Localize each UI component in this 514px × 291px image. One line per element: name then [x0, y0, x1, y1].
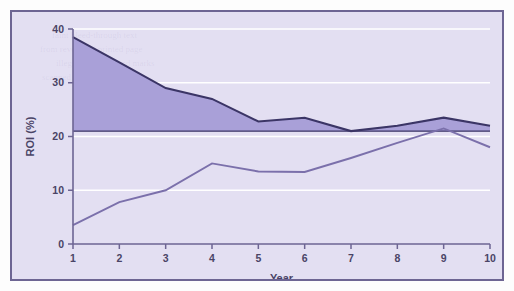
y-tick-label: 40 — [52, 23, 64, 35]
x-tick-label: 4 — [209, 252, 215, 264]
y-tick-label: 30 — [52, 76, 64, 88]
series-upper-area — [73, 37, 490, 131]
x-tick-label: 6 — [302, 252, 308, 264]
y-tick-label: 20 — [52, 130, 64, 142]
chart-plot-area: 010203040 12345678910 Year ROI (%) — [12, 12, 502, 279]
y-axis-tick-labels: 010203040 — [52, 23, 64, 250]
y-tick-label: 0 — [58, 238, 64, 250]
series-lower-line — [73, 128, 490, 225]
figure-container: faint bleed-through text from reverse of… — [0, 0, 514, 291]
y-tick-label: 10 — [52, 184, 64, 196]
x-tick-label: 10 — [484, 252, 496, 264]
x-tick-label: 7 — [348, 252, 354, 264]
x-tick-label: 9 — [441, 252, 447, 264]
x-tick-label: 1 — [70, 252, 76, 264]
y-axis-label: ROI (%) — [24, 116, 36, 156]
chart-frame: faint bleed-through text from reverse of… — [10, 10, 504, 281]
x-tick-label: 5 — [255, 252, 261, 264]
x-tick-label: 2 — [116, 252, 122, 264]
x-tick-label: 8 — [394, 252, 400, 264]
x-tick-label: 3 — [163, 252, 169, 264]
x-axis-tick-labels: 12345678910 — [70, 252, 496, 264]
x-axis-label: Year — [270, 272, 294, 279]
